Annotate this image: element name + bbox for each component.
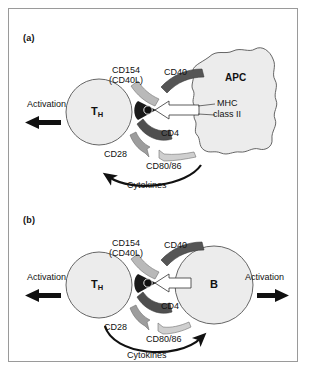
cd28-band-b <box>130 305 150 330</box>
th-cell-subscript-b: H <box>98 283 103 292</box>
panel-a: (a) <box>9 9 299 195</box>
cd40l-label-b: (CD40L) <box>93 248 159 259</box>
th-cell-letter-b: T <box>91 278 98 290</box>
b-cell-label: B <box>210 278 218 290</box>
cd28-label: CD28 <box>104 149 127 160</box>
cd28-label-b: CD28 <box>104 322 127 333</box>
mhc-label-line2: class II <box>213 109 241 120</box>
th-cell-letter: T <box>91 105 98 117</box>
mhc-label-line1: MHC <box>217 98 238 109</box>
activation-arrow-left-b <box>25 289 61 302</box>
panel-b: (b) <box>9 195 299 363</box>
cd154-label-b: CD154 <box>96 238 156 249</box>
cd40l-label: (CD40L) <box>93 75 159 86</box>
cd4-label: CD4 <box>161 128 179 139</box>
figure-frame: (a) <box>8 8 298 362</box>
th-cell-label: TH <box>91 105 103 117</box>
cd80-86-band-b <box>158 322 191 334</box>
mhc-class-ii-arrow <box>155 101 199 119</box>
activation-label-left-b: Activation <box>27 272 66 283</box>
cd80-86-label: CD80/86 <box>146 161 182 172</box>
apc-cell-label: APC <box>225 72 246 83</box>
cd80-86-label-b: CD80/86 <box>146 334 182 345</box>
activation-label-right-b: Activation <box>245 272 284 283</box>
activation-arrow-right-b <box>257 289 289 302</box>
figure-root: (a) <box>0 0 314 371</box>
activation-label-left: Activation <box>27 99 66 110</box>
activation-arrow-left <box>25 116 61 129</box>
cd154-label: CD154 <box>96 65 156 76</box>
cytokines-label-b: Cytokines <box>127 350 167 361</box>
th-cell-label-b: TH <box>91 278 103 290</box>
cd80-86-band <box>159 150 196 161</box>
cd4-label-b: CD4 <box>161 301 179 312</box>
cytokines-label: Cytokines <box>127 180 167 191</box>
cd40-label: CD40 <box>164 67 187 78</box>
th-cell-subscript: H <box>98 110 103 119</box>
cd28-band <box>130 132 150 157</box>
cd40-label-b: CD40 <box>164 240 187 251</box>
